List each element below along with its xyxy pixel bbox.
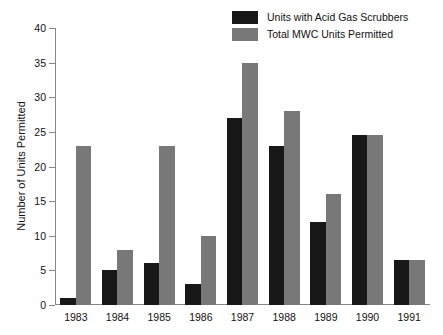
x-axis-tick-label: 1987 xyxy=(231,311,254,323)
bar xyxy=(284,111,299,305)
bar xyxy=(269,146,284,305)
y-axis-tick-label: 40 xyxy=(34,22,46,34)
y-axis-tick-label: 10 xyxy=(34,230,46,242)
y-axis-tick xyxy=(49,236,55,237)
y-axis-tick-label: 15 xyxy=(34,195,46,207)
bar xyxy=(409,260,424,305)
bar xyxy=(352,135,367,305)
bar xyxy=(102,270,117,305)
bar-chart: Units with Acid Gas Scrubbers Total MWC … xyxy=(0,0,443,335)
x-axis-tick-label: 1991 xyxy=(397,311,420,323)
y-axis-tick xyxy=(49,97,55,98)
plot-area: 0510152025303540198319841985198619871988… xyxy=(55,28,430,305)
bar-group xyxy=(227,28,258,305)
x-axis-tick-label: 1986 xyxy=(189,311,212,323)
bar xyxy=(117,250,132,305)
bar xyxy=(76,146,91,305)
y-axis-tick xyxy=(49,305,55,306)
bar-group xyxy=(352,28,383,305)
y-axis-tick-label: 35 xyxy=(34,57,46,69)
bar xyxy=(326,194,341,305)
bar xyxy=(310,222,325,305)
x-axis-tick-label: 1983 xyxy=(64,311,87,323)
y-axis-tick xyxy=(49,63,55,64)
legend-swatch-black xyxy=(232,11,258,24)
bar xyxy=(159,146,174,305)
bar xyxy=(367,135,382,305)
x-axis-tick-label: 1984 xyxy=(106,311,129,323)
x-axis-tick-label: 1990 xyxy=(356,311,379,323)
bar-group xyxy=(310,28,341,305)
legend-item-scrubbers: Units with Acid Gas Scrubbers xyxy=(232,11,408,24)
y-axis-tick-label: 5 xyxy=(40,264,46,276)
y-axis-tick-label: 30 xyxy=(34,91,46,103)
y-axis-tick-label: 20 xyxy=(34,161,46,173)
bar-group xyxy=(144,28,175,305)
bar-group xyxy=(60,28,91,305)
bar-group xyxy=(394,28,425,305)
y-axis-tick xyxy=(49,201,55,202)
y-axis-tick xyxy=(49,132,55,133)
bar xyxy=(60,298,75,305)
x-axis-tick-label: 1985 xyxy=(147,311,170,323)
bar-group xyxy=(269,28,300,305)
bar xyxy=(185,284,200,305)
x-axis-tick-label: 1989 xyxy=(314,311,337,323)
y-axis-tick xyxy=(49,270,55,271)
bar xyxy=(242,63,257,305)
bar xyxy=(394,260,409,305)
legend-label-scrubbers: Units with Acid Gas Scrubbers xyxy=(267,11,408,24)
y-axis-tick xyxy=(49,28,55,29)
bar xyxy=(227,118,242,305)
bar xyxy=(201,236,216,305)
y-axis-tick-label: 25 xyxy=(34,126,46,138)
y-axis-tick xyxy=(49,167,55,168)
bar xyxy=(144,263,159,305)
y-axis-tick-label: 0 xyxy=(40,299,46,311)
bar-group xyxy=(185,28,216,305)
bars-container xyxy=(55,28,430,305)
x-axis-tick-label: 1988 xyxy=(272,311,295,323)
y-axis-title: Number of Units Permitted xyxy=(15,56,27,276)
bar-group xyxy=(102,28,133,305)
